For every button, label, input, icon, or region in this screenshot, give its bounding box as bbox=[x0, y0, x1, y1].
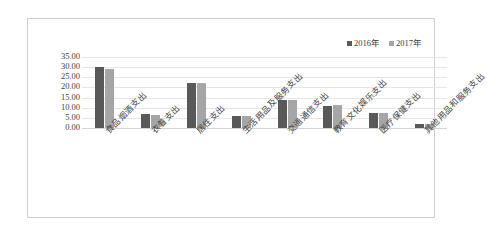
y-axis-tick-label: 20.00 bbox=[61, 82, 80, 91]
bar[interactable] bbox=[369, 113, 378, 128]
bar[interactable] bbox=[278, 100, 287, 128]
chart-legend: 2016年2017年 bbox=[347, 39, 422, 48]
y-axis-tick-label: 10.00 bbox=[61, 103, 80, 112]
bar[interactable] bbox=[141, 114, 150, 128]
bar[interactable] bbox=[95, 67, 104, 128]
y-axis-tick-label: 25.00 bbox=[61, 72, 80, 81]
y-axis-tick-label: 15.00 bbox=[61, 93, 80, 102]
legend-item[interactable]: 2016年 bbox=[347, 39, 380, 48]
legend-label: 2016年 bbox=[354, 39, 380, 48]
bar[interactable] bbox=[323, 106, 332, 128]
bar[interactable] bbox=[187, 83, 196, 128]
legend-item[interactable]: 2017年 bbox=[389, 39, 422, 48]
y-axis-tick-label: 0.00 bbox=[65, 123, 80, 132]
bar[interactable] bbox=[232, 116, 241, 128]
chart-frame: 2016年2017年 35.0030.0025.0020.0015.0010.0… bbox=[27, 18, 435, 218]
y-axis-tick-label: 30.00 bbox=[61, 62, 80, 71]
y-axis-tick-label: 5.00 bbox=[65, 113, 80, 122]
legend-swatch-icon bbox=[347, 41, 352, 46]
y-axis-tick-label: 35.00 bbox=[61, 52, 80, 61]
axis-baseline bbox=[82, 128, 447, 129]
y-axis: 35.0030.0025.0020.0015.0010.005.000.00 bbox=[48, 51, 80, 134]
legend-swatch-icon bbox=[389, 41, 394, 46]
legend-label: 2017年 bbox=[396, 39, 422, 48]
